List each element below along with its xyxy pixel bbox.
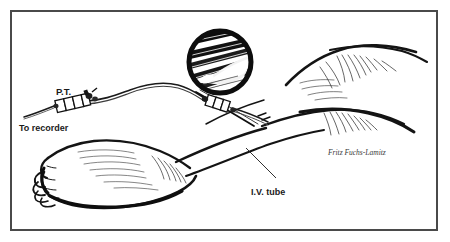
- label-iv-tube: I.V. tube: [251, 187, 285, 197]
- medical-illustration-figure: P.T. To recorder I.V. tube Fritz Fuchs-L…: [0, 0, 450, 242]
- hub-fitting-right: [230, 108, 236, 113]
- transducer-fitting-b: [92, 97, 98, 102]
- transducer-cable-boot: [53, 104, 58, 108]
- hub-fitting-left: [202, 96, 208, 102]
- label-pressure-transducer: P.T.: [56, 86, 71, 97]
- illustration-canvas: P.T. To recorder I.V. tube Fritz Fuchs-L…: [0, 0, 450, 242]
- label-to-recorder: To recorder: [19, 123, 69, 133]
- artist-signature: Fritz Fuchs-Lamitz: [327, 148, 386, 157]
